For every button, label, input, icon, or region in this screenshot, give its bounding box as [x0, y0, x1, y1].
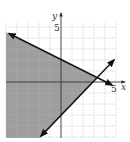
y-tick-label-5: 5	[54, 23, 60, 33]
inequality-graph: x y 5 5	[0, 0, 130, 142]
x-tick-label-5: 5	[111, 84, 117, 94]
x-axis-label: x	[121, 82, 126, 92]
y-axis-label: y	[51, 11, 58, 21]
